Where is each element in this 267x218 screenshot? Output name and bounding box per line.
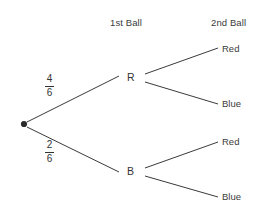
probability-fraction-b: 2 6 — [45, 140, 54, 165]
tree-branches-svg — [0, 0, 267, 218]
root-node-dot — [21, 121, 27, 127]
fraction-denominator: 6 — [46, 154, 54, 165]
fraction-numerator: 2 — [46, 140, 54, 151]
branch-r-to-red — [145, 48, 218, 74]
leaf-label-red-from-r: Red — [222, 43, 239, 54]
leaf-label-blue-from-b: Blue — [222, 191, 241, 202]
column-header-first-ball: 1st Ball — [110, 17, 142, 28]
column-header-second-ball: 2nd Ball — [211, 17, 246, 28]
probability-fraction-r: 4 6 — [45, 74, 54, 99]
branch-root-to-b — [27, 127, 119, 172]
probability-tree-diagram: 1st Ball 2nd Ball 4 6 2 6 R B Red Blue R… — [0, 0, 267, 218]
branch-b-to-red — [145, 142, 218, 168]
node-label-r: R — [127, 71, 135, 83]
leaf-label-red-from-b: Red — [222, 136, 239, 147]
fraction-denominator: 6 — [46, 88, 54, 99]
leaf-label-blue-from-r: Blue — [222, 98, 241, 109]
node-label-b: B — [127, 165, 134, 177]
branch-root-to-r — [27, 76, 119, 122]
fraction-numerator: 4 — [46, 74, 54, 85]
branch-r-to-blue — [145, 82, 218, 104]
branch-b-to-blue — [145, 176, 218, 197]
